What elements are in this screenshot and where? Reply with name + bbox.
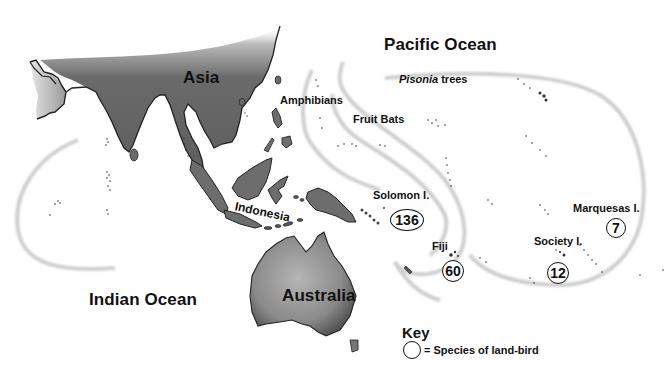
- australia-landmass: [250, 232, 356, 336]
- amphibians-label: Amphibians: [280, 95, 343, 106]
- pisonia-suffix: trees: [438, 73, 467, 85]
- sri-lanka: [130, 149, 138, 161]
- pacific-ocean-label: Pacific Ocean: [384, 36, 497, 53]
- solomon-islands: [361, 207, 386, 225]
- asia-label: Asia: [183, 69, 219, 86]
- map-canvas: [0, 0, 671, 382]
- philippines: [272, 108, 282, 128]
- key-description: = Species of land-bird: [424, 344, 539, 356]
- borneo: [232, 158, 272, 200]
- australia-label: Australia: [282, 287, 356, 304]
- solomon-islands-label: Solomon I.: [373, 190, 429, 201]
- new-guinea: [306, 188, 356, 222]
- key-title: Key: [402, 324, 430, 341]
- marquesas-islands-label: Marquesas I.: [573, 203, 640, 214]
- sulawesi: [268, 176, 288, 204]
- society-species-count: 12: [547, 262, 569, 284]
- indian-ocean-label: Indian Ocean: [89, 291, 197, 308]
- fruit-bats-label: Fruit Bats: [353, 114, 404, 125]
- fiji-species-count: 60: [442, 260, 464, 282]
- sumatra: [190, 160, 228, 214]
- fiji-label: Fiji: [432, 241, 448, 252]
- pisonia-genus: Pisonia: [399, 73, 438, 85]
- solomon-species-count: 136: [390, 209, 424, 231]
- key-row: = Species of land-bird: [403, 341, 539, 359]
- tasmania: [350, 340, 358, 352]
- circle-icon: [403, 341, 421, 359]
- society-islands-label: Society I.: [534, 236, 582, 247]
- marquesas-species-count: 7: [606, 218, 626, 238]
- pisonia-trees-label: Pisonia trees: [399, 74, 467, 85]
